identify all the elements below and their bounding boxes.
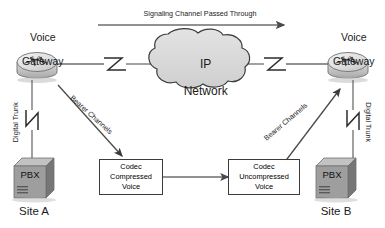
codec-compressed-line2: Compressed — [110, 172, 152, 181]
codec-compressed-box: Codec Compressed Voice — [99, 159, 163, 195]
network-diagram: Signaling Channel Passed Through Voice G… — [0, 0, 385, 228]
digital-trunk-label-left: Digital Trunk — [12, 92, 20, 152]
codec-compressed-line1: Codec — [120, 162, 141, 171]
digital-trunk-label-right: Digital Trunk — [364, 92, 372, 152]
gateway-label-right-line1: Voice — [341, 31, 367, 43]
pbx-label-right: PBX — [316, 170, 348, 181]
cloud-label: IP Network — [170, 44, 228, 113]
cloud-label-line2: Network — [184, 84, 228, 98]
digital-trunk-line-right — [347, 80, 359, 160]
pbx-label-left: PBX — [14, 170, 46, 181]
codec-uncompressed-line3: Voice — [255, 182, 273, 191]
gateway-label-left-line1: Voice — [30, 31, 56, 43]
gateway-label-left-line2: Gateway — [22, 55, 63, 67]
site-label-a: Site A — [4, 205, 64, 218]
serial-link-zigzag-icon — [104, 58, 126, 70]
serial-link-zigzag-icon — [347, 110, 359, 130]
signaling-channel-label: Signaling Channel Passed Through — [110, 10, 290, 18]
gateway-label-left: Voice Gateway — [5, 19, 69, 79]
bearer-channel-arrow-right — [284, 89, 340, 163]
codec-uncompressed-line2: Uncompressed — [239, 172, 289, 181]
serial-link-zigzag-icon — [26, 110, 38, 130]
site-label-b: Site B — [306, 205, 366, 218]
gateway-label-right: Voice Gateway — [316, 19, 380, 79]
digital-trunk-line-left — [26, 80, 38, 160]
codec-compressed-line3: Voice — [122, 182, 140, 191]
codec-uncompressed-box: Codec Uncompressed Voice — [228, 159, 300, 195]
gateway-label-right-line2: Gateway — [333, 55, 374, 67]
serial-link-zigzag-icon — [264, 58, 286, 70]
cloud-label-line1: IP — [200, 57, 211, 71]
codec-uncompressed-line1: Codec — [253, 162, 274, 171]
link-left-gateway-to-cloud — [58, 58, 152, 70]
